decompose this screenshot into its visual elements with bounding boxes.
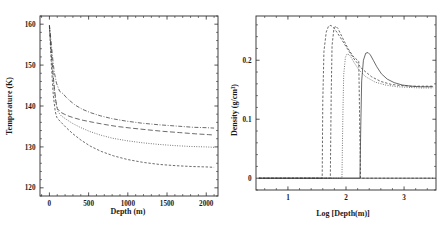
xtick-label: 500 xyxy=(83,200,94,208)
series-density-4 xyxy=(259,53,433,179)
right-yaxis-title: Density (g/cm³) xyxy=(230,84,239,136)
xtick-label: 2000 xyxy=(199,200,214,208)
series-density-2 xyxy=(259,26,433,178)
density-logdepth-panel: 12300.10.2 Log [Depth(m)] Density (g/cm³… xyxy=(223,0,446,234)
ytick-label: 0.2 xyxy=(243,57,252,65)
series-profile-3 xyxy=(49,25,214,147)
ytick-label: 0.1 xyxy=(243,116,252,124)
ytick-label: 0 xyxy=(248,175,252,183)
xtick-label: 0 xyxy=(48,200,52,208)
xtick-label: 1 xyxy=(286,194,290,202)
series-density-3 xyxy=(259,54,433,178)
temperature-depth-panel: 0500100015002000120130140150160 Depth (m… xyxy=(0,0,223,234)
ytick-label: 160 xyxy=(25,21,36,29)
xtick-label: 3 xyxy=(402,194,406,202)
left-yaxis-title: Temperature (K) xyxy=(5,77,14,135)
xtick-label: 1500 xyxy=(160,200,175,208)
temperature-depth-plot: 0500100015002000120130140150160 Depth (m… xyxy=(0,0,223,234)
density-logdepth-plot: 12300.10.2 Log [Depth(m)] Density (g/cm³… xyxy=(223,0,446,234)
right-xaxis-title: Log [Depth(m)] xyxy=(316,209,370,218)
ytick-label: 120 xyxy=(25,184,36,192)
ytick-label: 140 xyxy=(25,103,36,111)
ytick-label: 150 xyxy=(25,62,36,70)
series-density-1 xyxy=(259,25,433,178)
xtick-label: 2 xyxy=(344,194,348,202)
scientific-figure: 0500100015002000120130140150160 Depth (m… xyxy=(0,0,446,234)
left-xaxis-title: Depth (m) xyxy=(111,207,146,216)
ytick-label: 130 xyxy=(25,144,36,152)
series-profile-2 xyxy=(49,26,214,135)
series-profile-1 xyxy=(49,25,214,128)
